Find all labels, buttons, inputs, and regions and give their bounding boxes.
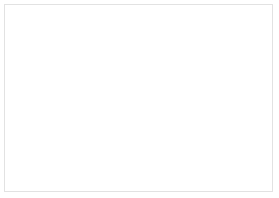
corner-handle-right[interactable] <box>137 112 141 116</box>
corner-handle-center[interactable] <box>106 112 110 116</box>
corner-handle-left[interactable] <box>71 111 75 115</box>
glass-rim-inner <box>164 36 222 47</box>
lift-arrow-icon <box>89 66 95 70</box>
rotate-handle-left[interactable] <box>70 135 74 139</box>
edge-handle-bl[interactable] <box>71 123 75 127</box>
corner-handle-top[interactable] <box>89 83 93 87</box>
design-viewport[interactable] <box>0 0 279 198</box>
glass-liquid <box>164 42 222 120</box>
drinking-glass-object[interactable] <box>157 30 229 128</box>
glass-base <box>166 113 220 125</box>
rotate-handle-bottom[interactable] <box>106 142 110 146</box>
edge-handle-b2[interactable] <box>118 128 122 132</box>
ice-cube-cluster-object[interactable] <box>58 62 150 158</box>
edge-handle-b1[interactable] <box>102 128 106 132</box>
